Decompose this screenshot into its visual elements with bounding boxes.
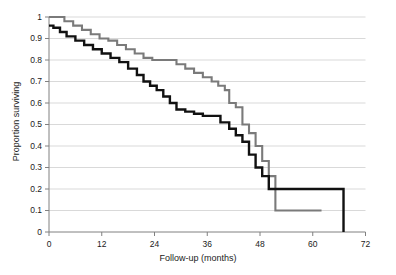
y-tick-label: 0.1: [9, 206, 42, 215]
x-tick-label: 24: [140, 240, 170, 249]
y-tick-label: 1: [9, 13, 42, 22]
y-axis-ticks: [45, 17, 49, 232]
survival-curve-group-black: [49, 26, 344, 232]
x-tick-label: 12: [87, 240, 117, 249]
x-axis-ticks: [49, 232, 366, 236]
x-tick-label: 72: [351, 240, 381, 249]
y-tick-label: 0.9: [9, 34, 42, 43]
x-tick-label: 0: [34, 240, 64, 249]
y-axis-title: Proportion surviving: [12, 62, 21, 182]
x-tick-label: 36: [192, 240, 222, 249]
x-tick-label: 60: [298, 240, 328, 249]
y-tick-label: 0: [9, 228, 42, 237]
y-tick-label: 0.2: [9, 185, 42, 194]
x-tick-label: 48: [245, 240, 275, 249]
chart-figure: 00.10.20.30.40.50.60.70.80.91 0122436486…: [0, 0, 396, 275]
gridlines: [49, 17, 366, 211]
survival-plot: [0, 0, 396, 275]
x-axis-title: Follow-up (months): [0, 254, 396, 263]
